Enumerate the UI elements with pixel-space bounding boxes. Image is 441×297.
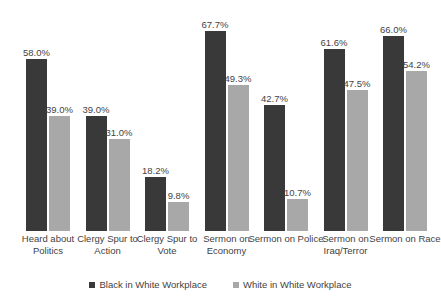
legend-swatch-icon xyxy=(89,282,95,288)
bar-value-label: 39.0% xyxy=(46,104,73,115)
bar-value-label: 39.0% xyxy=(83,104,110,115)
bar-column[interactable]: 42.7% xyxy=(264,93,285,231)
clipped-title-strip xyxy=(0,0,441,9)
legend-item[interactable]: Black in White Workplace xyxy=(89,279,207,291)
legend-item[interactable]: White in White Workplace xyxy=(233,279,352,291)
bar-column[interactable]: 10.7% xyxy=(287,187,308,231)
bar-group: 67.7%49.3% xyxy=(205,9,249,231)
bar[interactable] xyxy=(168,202,189,231)
x-axis-tick-label: Sermon on Race xyxy=(365,233,441,245)
bar-value-label: 18.2% xyxy=(142,165,169,176)
bar[interactable] xyxy=(264,105,285,231)
bar-value-label: 9.8% xyxy=(168,190,190,201)
bar-column[interactable]: 47.5% xyxy=(347,78,368,231)
bar-column[interactable]: 9.8% xyxy=(168,190,189,231)
bar[interactable] xyxy=(324,49,345,231)
bar[interactable] xyxy=(109,139,130,231)
x-axis-labels: Heard about PoliticsClergy Spur to Actio… xyxy=(0,233,441,267)
bar-column[interactable]: 39.0% xyxy=(86,104,107,231)
legend-label: White in White Workplace xyxy=(243,279,352,291)
bar[interactable] xyxy=(26,59,47,231)
bar[interactable] xyxy=(406,71,427,231)
bar-group: 42.7%10.7% xyxy=(264,9,308,231)
bar-group: 18.2%9.8% xyxy=(145,9,189,231)
bar-column[interactable]: 66.0% xyxy=(383,24,404,231)
bar[interactable] xyxy=(228,85,249,231)
bar[interactable] xyxy=(49,116,70,231)
bar[interactable] xyxy=(145,177,166,231)
bar-value-label: 10.7% xyxy=(284,187,311,198)
bar-column[interactable]: 54.2% xyxy=(406,59,427,231)
bar-value-label: 54.2% xyxy=(403,59,430,70)
bar[interactable] xyxy=(383,36,404,231)
bar-group: 39.0%31.0% xyxy=(86,9,130,231)
bar-group: 58.0%39.0% xyxy=(26,9,70,231)
legend-swatch-icon xyxy=(233,282,239,288)
bar-column[interactable]: 31.0% xyxy=(109,127,130,231)
bar-value-label: 42.7% xyxy=(261,93,288,104)
bar-column[interactable]: 49.3% xyxy=(228,73,249,231)
bar-column[interactable]: 18.2% xyxy=(145,165,166,231)
bar-column[interactable]: 39.0% xyxy=(49,104,70,231)
bar-value-label: 67.7% xyxy=(202,19,229,30)
legend-label: Black in White Workplace xyxy=(99,279,207,291)
bar-value-label: 31.0% xyxy=(106,127,133,138)
bar-column[interactable]: 61.6% xyxy=(324,37,345,231)
bar-value-label: 61.6% xyxy=(321,37,348,48)
bar[interactable] xyxy=(205,31,226,231)
bar-chart: 58.0%39.0%39.0%31.0%18.2%9.8%67.7%49.3%4… xyxy=(0,0,441,297)
bar-group: 66.0%54.2% xyxy=(383,9,427,231)
bar-value-label: 66.0% xyxy=(380,24,407,35)
bar-column[interactable]: 67.7% xyxy=(205,19,226,231)
bar-group: 61.6%47.5% xyxy=(324,9,368,231)
plot-area: 58.0%39.0%39.0%31.0%18.2%9.8%67.7%49.3%4… xyxy=(0,9,441,231)
bar-value-label: 47.5% xyxy=(344,78,371,89)
bar[interactable] xyxy=(287,199,308,231)
bar[interactable] xyxy=(86,116,107,231)
chart-legend: Black in White WorkplaceWhite in White W… xyxy=(0,277,441,293)
bar[interactable] xyxy=(347,90,368,231)
bar-column[interactable]: 58.0% xyxy=(26,47,47,231)
bar-value-label: 49.3% xyxy=(225,73,252,84)
bar-value-label: 58.0% xyxy=(23,47,50,58)
